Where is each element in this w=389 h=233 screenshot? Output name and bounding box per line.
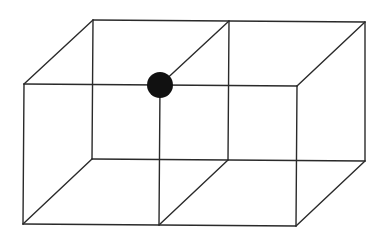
cube-edge — [159, 160, 228, 225]
cube-edge — [296, 86, 297, 226]
diagram-canvas — [0, 0, 389, 233]
cube-edge — [92, 20, 93, 159]
cube-edge — [159, 85, 160, 225]
cube-edge — [24, 20, 93, 84]
highlighted-vertex-dot — [147, 72, 173, 98]
cube-edge — [23, 159, 92, 224]
cube-edges — [23, 20, 365, 226]
cube-wireframe-diagram — [0, 0, 389, 233]
cube-edge — [228, 21, 229, 160]
cube-edge — [296, 161, 365, 226]
cube-edge — [297, 22, 365, 86]
cube-edge — [23, 84, 24, 224]
cube-edge — [160, 21, 229, 85]
